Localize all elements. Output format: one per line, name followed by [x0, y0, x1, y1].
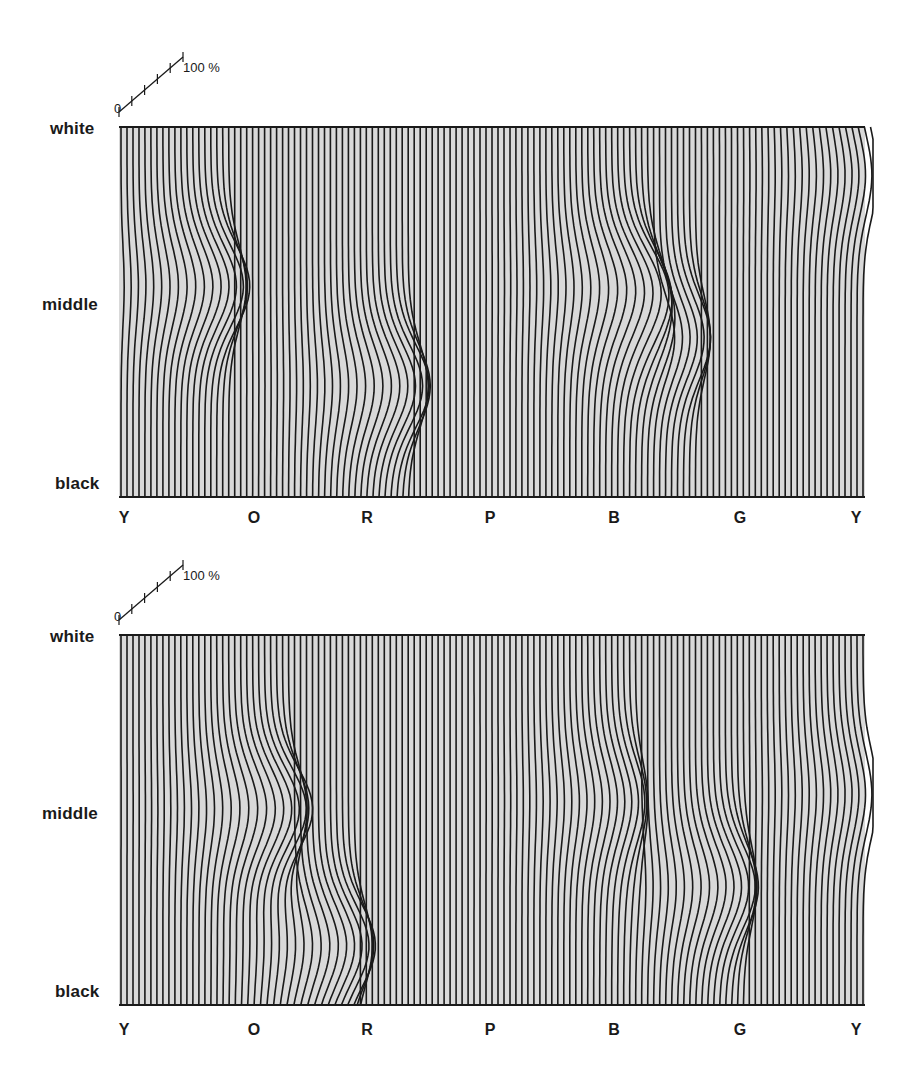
y-label-black: black [55, 474, 99, 494]
y-label-white: white [50, 119, 94, 139]
hue-label-r: R [361, 1021, 373, 1039]
hue-label-b: B [608, 1021, 620, 1039]
y-label-white: white [50, 627, 94, 647]
hue-label-o: O [248, 1021, 260, 1039]
hue-label-y-end: Y [851, 1021, 862, 1039]
scale-zero-label: 0 [114, 609, 121, 624]
scale-max-label: 100 % [183, 568, 220, 583]
hue-label-p: P [485, 1021, 496, 1039]
y-label-middle: middle [42, 804, 98, 824]
deformation-plot-bottom [0, 508, 908, 1048]
y-label-middle: middle [42, 295, 98, 315]
y-label-black: black [55, 982, 99, 1002]
deformation-plot-top [0, 0, 908, 540]
scale-zero-label: 0 [114, 101, 121, 116]
panel-bottom: 0 100 % white middle black Y O R P B G Y [0, 508, 908, 1079]
hue-label-y-start: Y [119, 1021, 130, 1039]
hue-label-g: G [734, 1021, 746, 1039]
panel-top: 0 100 % white middle black Y O R P B G Y [0, 0, 908, 540]
scale-max-label: 100 % [183, 60, 220, 75]
